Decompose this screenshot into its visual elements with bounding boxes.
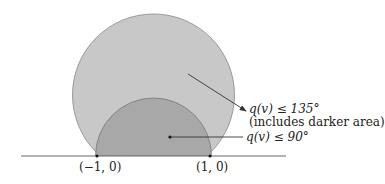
point-plus-one — [209, 155, 212, 158]
point-minus-one — [96, 155, 99, 158]
inner-region-label: q(v) ≤ 90° — [246, 131, 309, 144]
point-label-minus-one: (−1, 0) — [79, 161, 121, 174]
outer-region-sublabel: (includes darker area) — [249, 116, 385, 129]
point-label-plus-one: (1, 0) — [196, 161, 228, 174]
